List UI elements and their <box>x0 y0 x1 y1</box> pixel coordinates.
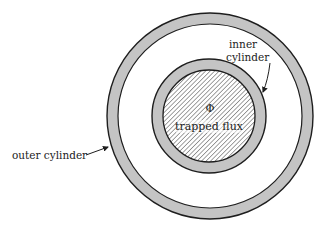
trapped-flux-label: trapped flux <box>175 120 244 133</box>
coaxial-cylinders-diagram: Φ trapped flux inner cylinder outer cyli… <box>0 0 319 226</box>
inner-cylinder-label-line1: inner <box>229 38 258 50</box>
phi-symbol: Φ <box>205 102 214 115</box>
inner-cylinder-label-line2: cylinder <box>226 51 270 63</box>
trapped-flux-region <box>163 70 255 162</box>
outer-cylinder-arrow <box>86 147 108 155</box>
outer-cylinder-label: outer cylinder <box>12 149 88 161</box>
